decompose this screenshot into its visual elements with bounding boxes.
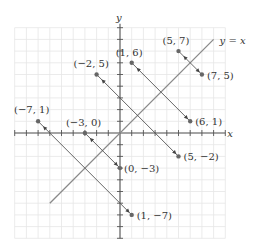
point-label: (7, 5) xyxy=(207,70,234,81)
line-label: y = x xyxy=(219,35,246,46)
point xyxy=(130,61,134,65)
reflection-plot: xy y = x (−7, 1)(1, −7)(−3, 0)(0, −3)(−2… xyxy=(0,0,261,250)
y-axis-label: y xyxy=(115,12,122,23)
point-label: (1, 6) xyxy=(116,47,143,58)
point-label: (−3, 0) xyxy=(66,117,101,128)
coordinate-plane-diagram: xy y = x (−7, 1)(1, −7)(−3, 0)(0, −3)(−2… xyxy=(0,0,261,250)
point-label: (1, −7) xyxy=(137,210,172,221)
point xyxy=(36,119,40,123)
point xyxy=(94,72,98,76)
point-label: (0, −3) xyxy=(124,163,159,174)
point-label: (5, −2) xyxy=(184,151,219,162)
point xyxy=(83,131,87,135)
point xyxy=(176,49,180,53)
point xyxy=(176,154,180,158)
point-label: (5, 7) xyxy=(163,35,190,46)
point xyxy=(188,119,192,123)
x-axis-label: x xyxy=(227,128,233,139)
point-label: (−2, 5) xyxy=(74,58,109,69)
point xyxy=(130,213,134,217)
point-label: (−7, 1) xyxy=(14,104,49,115)
point xyxy=(200,72,204,76)
point-label: (6, 1) xyxy=(195,116,222,127)
point xyxy=(118,166,122,170)
